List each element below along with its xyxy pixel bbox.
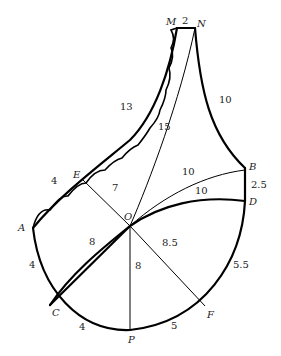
measure-me: 13 xyxy=(120,101,133,112)
measure-fd: 5.5 xyxy=(233,259,249,270)
measure-ea: 4 xyxy=(51,175,57,186)
line-oe xyxy=(83,180,130,226)
measure-ac: 4 xyxy=(29,259,35,270)
measure-od: 10 xyxy=(195,185,208,196)
label-point-a: A xyxy=(17,222,25,233)
line-ob xyxy=(130,170,245,226)
label-point-o: O xyxy=(124,211,132,222)
label-point-e: E xyxy=(72,169,81,180)
measure-oc: 8 xyxy=(89,236,95,247)
measure-ob: 10 xyxy=(182,166,195,177)
label-point-f: F xyxy=(206,309,215,320)
label-point-m: M xyxy=(165,16,177,27)
arc-od xyxy=(130,199,245,226)
label-point-c: C xyxy=(52,307,60,318)
label-point-n: N xyxy=(196,18,207,29)
measure-on: 15 xyxy=(158,121,171,132)
measure-oe: 7 xyxy=(112,182,118,193)
measure-nb: 10 xyxy=(219,94,232,105)
measure-op: 8 xyxy=(135,260,141,271)
scallop-edge xyxy=(33,28,177,228)
measure-pf: 5 xyxy=(171,320,177,331)
measure-bd: 2.5 xyxy=(251,179,267,190)
label-point-b: B xyxy=(248,161,256,172)
pattern-diagram: M N B D E A O C P F 2 10 15 13 4 7 10 10… xyxy=(0,0,281,356)
measure-cp: 4 xyxy=(79,321,85,332)
label-point-p: P xyxy=(127,334,135,345)
label-point-d: D xyxy=(248,196,257,207)
edge-am xyxy=(33,28,177,228)
measure-mn: 2 xyxy=(182,15,188,26)
measure-of: 8.5 xyxy=(162,237,178,248)
